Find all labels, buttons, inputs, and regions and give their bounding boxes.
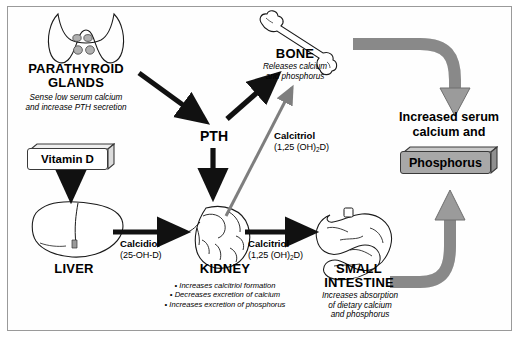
physiology-diagram: PARATHYROID GLANDS Sense low serum calci… bbox=[0, 0, 519, 338]
outcome-line2: calcium and bbox=[413, 125, 486, 139]
small-intestine-title-line1: SMALL bbox=[336, 261, 382, 276]
parathyroid-title-line1: PARATHYROID bbox=[28, 61, 124, 76]
small-intestine-description: Increases absorption of dietary calcium … bbox=[300, 291, 420, 320]
bone-description: Releases calcium and phosphorus bbox=[252, 62, 338, 81]
small-intestine-desc-line1: Increases absorption bbox=[322, 291, 398, 300]
small-intestine-title: SMALL INTESTINE bbox=[305, 262, 413, 290]
mediator-calcidiol: Calcidiol (25-OH-D) bbox=[120, 238, 192, 261]
kidney-effect-item: • Increases excretion of phosphorus bbox=[140, 300, 310, 309]
parathyroid-title: PARATHYROID GLANDS bbox=[6, 62, 146, 90]
bone-title: BONE bbox=[258, 47, 332, 61]
vitamin-d-label: Vitamin D bbox=[27, 148, 108, 170]
calcitriol-bone-formula: (1,25 (OH)2D) bbox=[274, 142, 329, 152]
parathyroid-desc-line1: Sense low serum calcium bbox=[30, 93, 123, 102]
pth-label: PTH bbox=[183, 128, 245, 144]
kidney-effect-item: • Increases calcitriol formation bbox=[140, 281, 310, 290]
kidney-effect-item: • Decreases excretion of calcium bbox=[140, 290, 310, 299]
outcome-line1: Increased serum bbox=[399, 110, 499, 124]
parathyroid-desc-line2: and increase PTH secretion bbox=[25, 103, 126, 112]
parathyroid-title-line2: GLANDS bbox=[48, 75, 104, 90]
kidney-title: KIDNEY bbox=[182, 262, 268, 276]
liver-title: LIVER bbox=[38, 262, 110, 276]
small-intestine-desc-line3: and phosphorus bbox=[331, 310, 390, 319]
calcitriol-intestine-name: Calcitriol bbox=[248, 238, 289, 249]
calcidiol-name: Calcidiol bbox=[120, 238, 160, 249]
phosphorus-box[interactable]: Phosphorus bbox=[400, 146, 498, 174]
calcitriol-bone-name: Calcitriol bbox=[274, 130, 315, 141]
outcome-text: Increased serum calcium and bbox=[382, 110, 516, 140]
small-intestine-desc-line2: of dietary calcium bbox=[328, 301, 392, 310]
small-intestine-title-line2: INTESTINE bbox=[324, 275, 394, 290]
vitamin-d-box[interactable]: Vitamin D bbox=[27, 143, 115, 170]
parathyroid-description: Sense low serum calcium and increase PTH… bbox=[4, 93, 148, 112]
bone-desc-line2: and phosphorus bbox=[266, 72, 325, 81]
calcidiol-formula: (25-OH-D) bbox=[120, 250, 162, 260]
bone-desc-line1: Releases calcium bbox=[263, 62, 327, 71]
phosphorus-label: Phosphorus bbox=[400, 151, 491, 174]
kidney-effects-list: • Increases calcitriol formation • Decre… bbox=[140, 281, 310, 309]
mediator-calcitriol-bone: Calcitriol (1,25 (OH)2D) bbox=[274, 130, 360, 153]
calcitriol-intestine-formula: (1,25 (OH)2D) bbox=[248, 250, 303, 260]
mediator-calcitriol-intestine: Calcitriol (1,25 (OH)2D) bbox=[248, 238, 334, 261]
